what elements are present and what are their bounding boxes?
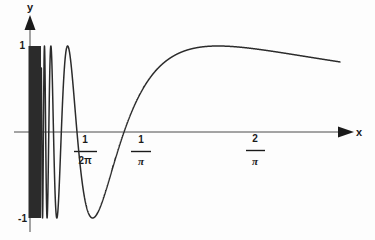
- x-tick-denominator-pi: π: [252, 155, 259, 167]
- x-tick-denominator-pi: π: [138, 155, 145, 167]
- figure-plot-sin-one-over-x: x y 1 -1 1 2π 1 π 2 π: [0, 0, 375, 240]
- y-tick-label-1: 1: [19, 40, 25, 51]
- x-tick-numerator-1: 1: [138, 134, 144, 145]
- x-tick-numerator-2: 2: [252, 133, 258, 144]
- plot-svg: x y 1 -1 1 2π 1 π 2 π: [0, 0, 375, 240]
- x-axis-label: x: [356, 126, 363, 138]
- y-tick-label-minus-1: -1: [18, 213, 27, 224]
- y-axis-label: y: [27, 1, 34, 13]
- dense-oscillation-band: [29, 46, 42, 218]
- x-tick-numerator-1: 1: [82, 134, 88, 145]
